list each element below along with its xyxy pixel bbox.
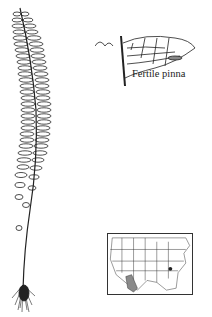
range-marker [168,267,172,271]
distribution-map [107,233,193,295]
inset-label: Fertile pinna [132,68,185,79]
shaded-range [126,275,138,292]
fern-frond-illustration [0,0,100,317]
fertile-pinna-inset [95,28,205,88]
